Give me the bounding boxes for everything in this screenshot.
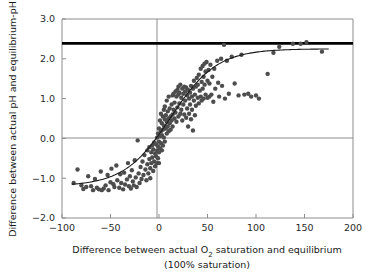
data-point xyxy=(130,168,134,172)
data-point xyxy=(211,100,215,104)
x-tick-label: 50 xyxy=(201,222,213,233)
data-point xyxy=(160,148,164,152)
data-point xyxy=(115,178,119,182)
data-point xyxy=(143,167,147,171)
data-point xyxy=(193,113,197,117)
data-point xyxy=(170,124,174,128)
data-point xyxy=(192,98,196,102)
data-point xyxy=(156,156,160,160)
data-point xyxy=(184,116,188,120)
data-point xyxy=(215,59,219,63)
data-point xyxy=(179,108,183,112)
x-axis-ticks xyxy=(62,214,353,218)
data-point xyxy=(189,117,193,121)
data-point xyxy=(265,72,269,76)
data-point xyxy=(112,185,116,189)
x-tick-label: 100 xyxy=(247,222,265,233)
data-point xyxy=(140,159,144,163)
data-point xyxy=(174,119,178,123)
data-point xyxy=(180,118,184,122)
data-point xyxy=(277,45,281,49)
data-point xyxy=(217,94,221,98)
y-axis-ticks xyxy=(62,19,66,218)
x-axis-title: Difference between actual O2 saturation … xyxy=(72,244,341,259)
y-axis-title: Difference between actual pH and equilib… xyxy=(7,1,18,237)
data-point xyxy=(137,181,141,185)
data-point xyxy=(207,81,211,85)
data-point xyxy=(134,175,138,179)
data-point xyxy=(201,96,205,100)
data-point xyxy=(191,128,195,132)
data-point xyxy=(202,82,206,86)
data-point xyxy=(186,124,190,128)
data-point xyxy=(188,102,192,106)
data-point xyxy=(144,178,148,182)
x-tick-label: 200 xyxy=(344,222,362,233)
data-point xyxy=(187,112,191,116)
data-point xyxy=(134,185,138,189)
x-tick-label: −100 xyxy=(49,222,75,233)
data-point xyxy=(146,171,150,175)
y-tick-label: 2.0 xyxy=(40,53,55,64)
y-tick-label: 1.0 xyxy=(40,93,55,104)
x-tick-label: 0 xyxy=(156,222,162,233)
data-point xyxy=(257,96,261,100)
data-point xyxy=(99,169,103,173)
data-point xyxy=(86,174,90,178)
data-point xyxy=(117,186,121,190)
data-point xyxy=(128,174,132,178)
data-point xyxy=(141,173,145,177)
data-point xyxy=(320,49,324,53)
data-point xyxy=(172,100,176,104)
data-point xyxy=(219,57,223,61)
data-point xyxy=(177,90,181,94)
data-point xyxy=(89,184,93,188)
data-point xyxy=(139,177,143,181)
x-tick-label: 150 xyxy=(295,222,313,233)
data-point xyxy=(138,165,142,169)
chart-figure: −100−50050100150200 −2.0−1.00.01.02.03.0… xyxy=(0,0,374,279)
data-point xyxy=(222,43,226,47)
data-point xyxy=(216,80,220,84)
data-point xyxy=(178,82,182,86)
data-point xyxy=(236,93,240,97)
data-point xyxy=(145,162,149,166)
data-point xyxy=(227,92,231,96)
data-point xyxy=(181,102,185,106)
data-point xyxy=(151,169,155,173)
data-point xyxy=(185,106,189,110)
data-point xyxy=(249,94,253,98)
data-point xyxy=(121,187,125,191)
data-point xyxy=(223,96,227,100)
data-point xyxy=(190,108,194,112)
data-point xyxy=(298,41,302,45)
data-point xyxy=(271,51,275,55)
y-tick-label: −1.0 xyxy=(32,173,55,184)
data-point xyxy=(209,92,213,96)
x-tick-label: −50 xyxy=(100,222,120,233)
data-point xyxy=(208,63,212,67)
data-point xyxy=(210,75,214,79)
data-point xyxy=(150,155,154,159)
data-point xyxy=(91,188,95,192)
scatter-points-layer xyxy=(71,40,324,192)
data-point xyxy=(162,135,166,139)
y-axis-tick-labels: −2.0−1.00.01.02.03.0 xyxy=(32,13,55,223)
data-point xyxy=(151,147,155,151)
data-point xyxy=(157,161,161,165)
data-point xyxy=(291,41,295,45)
data-point xyxy=(135,138,139,142)
data-point xyxy=(106,188,110,192)
data-point xyxy=(103,183,107,187)
y-tick-label: 3.0 xyxy=(40,13,55,24)
data-point xyxy=(213,86,217,90)
data-point xyxy=(136,171,140,175)
data-point xyxy=(131,179,135,183)
data-point xyxy=(148,176,152,180)
data-point xyxy=(163,139,167,143)
data-point xyxy=(109,166,113,170)
data-point xyxy=(105,173,109,177)
y-tick-label: 0.0 xyxy=(40,133,55,144)
data-point xyxy=(165,98,169,102)
data-point xyxy=(220,84,224,88)
